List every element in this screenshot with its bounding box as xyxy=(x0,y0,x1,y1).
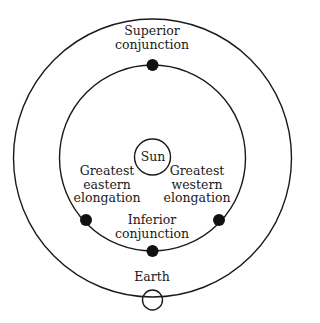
label-line: Inferior xyxy=(115,213,189,227)
label-line: elongation xyxy=(163,191,230,205)
sun-label: Sun xyxy=(141,150,166,163)
planet-dot-superior-conjunction xyxy=(147,59,159,71)
label-line: elongation xyxy=(73,191,140,205)
label-line: Earth xyxy=(134,270,170,284)
label-line: Sun xyxy=(141,150,166,163)
superior-conjunction-label: Superior conjunction xyxy=(115,24,189,51)
label-line: Greatest xyxy=(73,164,140,178)
inferior-conjunction-label: Inferior conjunction xyxy=(115,213,189,240)
label-line: conjunction xyxy=(115,38,189,52)
greatest-eastern-elongation-label: Greatest eastern elongation xyxy=(73,164,140,205)
label-line: Greatest xyxy=(163,164,230,178)
greatest-western-elongation-label: Greatest western elongation xyxy=(163,164,230,205)
label-line: western xyxy=(163,178,230,192)
label-line: conjunction xyxy=(115,227,189,241)
planet-dot-eastern-elongation xyxy=(80,214,92,226)
earth-label: Earth xyxy=(134,270,170,284)
earth-circle xyxy=(143,290,163,310)
label-line: eastern xyxy=(73,178,140,192)
label-line: Superior xyxy=(115,24,189,38)
planet-dot-inferior-conjunction xyxy=(147,245,159,257)
planet-dot-western-elongation xyxy=(213,214,225,226)
